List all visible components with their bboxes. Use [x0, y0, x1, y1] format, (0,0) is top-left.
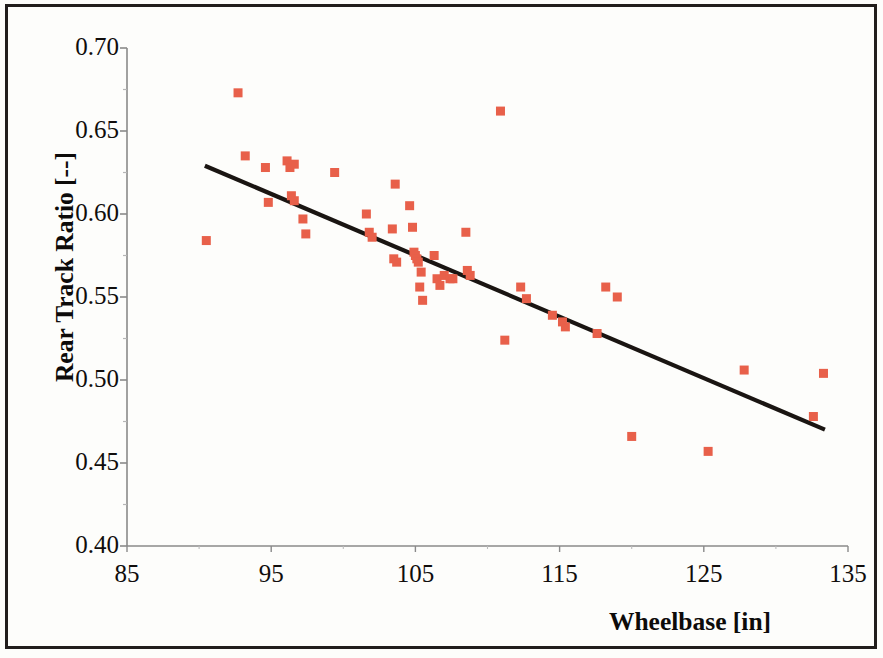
data-point [414, 258, 423, 267]
data-point [500, 336, 509, 345]
data-point [234, 88, 243, 97]
scatter-plot-figure: Rear Track Ratio [--] Wheelbase [in] 0.4… [0, 0, 883, 658]
data-point [430, 251, 439, 260]
data-point [408, 223, 417, 232]
data-point [627, 432, 636, 441]
data-point [613, 293, 622, 302]
data-point [415, 283, 424, 292]
data-point [704, 447, 713, 456]
data-point [362, 210, 371, 219]
data-point [522, 294, 531, 303]
data-point [435, 281, 444, 290]
data-point [301, 229, 310, 238]
data-point [809, 412, 818, 421]
data-point [290, 160, 299, 169]
data-point [298, 214, 307, 223]
data-point [388, 224, 397, 233]
data-point [391, 180, 400, 189]
data-point [264, 198, 273, 207]
data-point [368, 233, 377, 242]
data-point [819, 369, 828, 378]
data-point [202, 236, 211, 245]
data-point [392, 258, 401, 267]
data-point [405, 201, 414, 210]
data-markers [202, 88, 828, 456]
plot-canvas [0, 0, 883, 658]
data-point [241, 151, 250, 160]
data-point [417, 268, 426, 277]
axis-lines [127, 48, 848, 546]
data-point [516, 283, 525, 292]
data-point [330, 168, 339, 177]
data-point [601, 283, 610, 292]
data-point [448, 274, 457, 283]
data-point [261, 163, 270, 172]
data-point [548, 311, 557, 320]
data-point [593, 329, 602, 338]
data-point [290, 196, 299, 205]
data-point [466, 271, 475, 280]
trend-line [205, 166, 825, 430]
data-point [740, 366, 749, 375]
data-point [496, 107, 505, 116]
data-point [461, 228, 470, 237]
tick-marks [120, 48, 848, 552]
data-point [561, 322, 570, 331]
data-point [418, 296, 427, 305]
